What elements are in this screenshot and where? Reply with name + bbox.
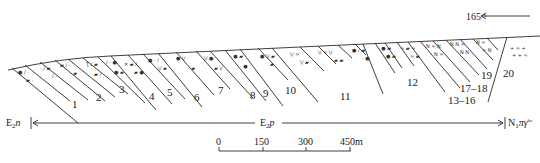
svg-text:▰ ▰: ▰ ▰ — [334, 57, 343, 63]
bed-label-20: 20 — [503, 67, 515, 79]
svg-text:\/ ●: \/ ● — [204, 55, 214, 61]
svg-text:≈ ▰ ≈: ≈ ▰ ≈ — [400, 45, 415, 51]
svg-text:● \/ ▰: ● \/ ▰ — [260, 53, 275, 59]
svg-text:▰ ·: ▰ · — [270, 61, 277, 67]
formation-right-label: N1πγbs — [508, 117, 532, 130]
formation-extent: E2n E2p N1πγbs — [6, 117, 532, 130]
scale-tick-0: 0 — [216, 136, 221, 147]
svg-text:· ● ▰: · ● ▰ — [378, 45, 391, 51]
svg-text:● ▰: ● ▰ — [386, 53, 396, 59]
scale-tick-300: 300 — [298, 136, 313, 147]
bed-label-4: 4 — [149, 90, 155, 102]
svg-text:Ʈ / ▰: Ʈ / ▰ — [85, 61, 98, 67]
svg-text:· ● ▰: · ● ▰ — [230, 53, 243, 59]
svg-text:≈ N: ≈ N — [482, 47, 492, 53]
svg-text:● \/ ·: ● \/ · — [176, 55, 189, 61]
svg-text:N N ≈: N N ≈ — [450, 41, 465, 47]
svg-text:\/ ≈: \/ ≈ — [290, 51, 299, 57]
svg-text:▰ / ·: ▰ / · — [60, 62, 71, 68]
svg-text:▰ /: ▰ / — [94, 71, 101, 77]
svg-text:+ + ≈: + + ≈ — [512, 52, 528, 58]
svg-text:N ≈: N ≈ — [476, 39, 486, 45]
bed-label-7: 7 — [218, 84, 224, 96]
bed-boundaries — [12, 37, 507, 123]
svg-text:≈ ▰: ≈ ▰ — [410, 53, 420, 59]
formation-left-label: E2n — [6, 117, 21, 130]
bed-label-5: 5 — [167, 86, 173, 98]
bed-label-17-18: 17–18 — [460, 82, 488, 94]
svg-text:· ▰: · ▰ — [70, 70, 77, 76]
bed-label-10: 10 — [285, 84, 297, 96]
svg-text:▰ \/: ▰ \/ — [214, 65, 223, 71]
bed-label-13-16: 13–16 — [448, 94, 476, 106]
svg-text:· ●: · ● — [240, 63, 248, 69]
svg-text:● · /: ● · / — [148, 57, 159, 63]
bed-label-1: 1 — [72, 98, 78, 110]
svg-text:▰ ·: ▰ · — [26, 77, 33, 83]
svg-text:/ · ●: / · ● — [106, 59, 117, 65]
svg-text:· ●: · ● — [362, 55, 370, 61]
svg-text:\/ ▰: \/ ▰ — [300, 59, 309, 65]
scale-bar: 0 150 300 450m — [216, 136, 363, 151]
cross-section-diagram: 165 — [0, 0, 540, 163]
strike-label: 165 — [466, 11, 481, 22]
svg-text:● ▰: ● ▰ — [114, 69, 124, 75]
scale-tick-150: 150 — [254, 136, 269, 147]
strike-tick — [484, 14, 486, 17]
svg-text:▰ ●: ▰ ● — [134, 69, 144, 75]
svg-text:● / ▰: ● / ▰ — [352, 47, 365, 53]
bed-label-12: 12 — [407, 76, 418, 88]
svg-text:● / ·: ● / · — [18, 69, 29, 75]
bed-label-8: 8 — [250, 89, 256, 101]
svg-text:\/ ≈ \/: \/ ≈ \/ — [318, 49, 332, 55]
svg-text:N ≈ N: N ≈ N — [426, 43, 441, 49]
svg-text:· ▰: · ▰ — [188, 65, 195, 71]
bed-label-19: 19 — [481, 69, 493, 81]
formation-middle-label: E2p — [260, 117, 275, 130]
svg-text:+ ≈ +: + ≈ + — [510, 45, 526, 51]
bed-label-11: 11 — [340, 90, 351, 102]
svg-text:\/ ▰: \/ ▰ — [158, 65, 167, 71]
svg-text:N ≈: N ≈ — [434, 51, 444, 57]
bed-label-9: 9 — [263, 87, 269, 99]
strike-indicator: 165 — [466, 11, 530, 22]
bed-label-6: 6 — [194, 91, 200, 103]
svg-text:✕ ▰ /: ✕ ▰ / — [124, 61, 137, 67]
bed-label-3: 3 — [119, 83, 125, 95]
svg-text:N N: N N — [460, 49, 469, 55]
bed-label-2: 2 — [96, 91, 102, 103]
svg-text:· / ▰: · / ▰ — [40, 65, 50, 71]
scale-tick-450m: 450m — [340, 136, 363, 147]
svg-text:/ ·: / · — [52, 73, 57, 79]
